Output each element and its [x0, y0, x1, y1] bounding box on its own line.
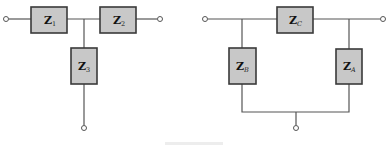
impedance-label: Z — [113, 14, 121, 27]
impedance-subscript: 3 — [86, 66, 90, 74]
impedance-subscript: A — [350, 66, 356, 74]
impedance-z3: Z3 — [71, 48, 97, 84]
pi-network: ZC ZB ZA — [203, 7, 386, 131]
terminal-t-right — [158, 17, 163, 22]
circuit-diagram: Z1 Z2 Z3 — [0, 0, 390, 149]
impedance-zb: ZB — [229, 48, 256, 84]
impedance-subscript: 1 — [52, 20, 56, 28]
impedance-zc: ZC — [277, 7, 313, 33]
terminal-pi-right — [381, 17, 386, 22]
impedance-label: Z — [44, 14, 52, 27]
impedance-subscript: B — [243, 66, 249, 74]
impedance-z2: Z2 — [100, 7, 136, 33]
terminal-pi-bottom — [294, 126, 299, 131]
t-network: Z1 Z2 Z3 — [4, 7, 163, 131]
impedance-label: Z — [236, 60, 244, 73]
terminal-pi-left — [203, 17, 208, 22]
impedance-za: ZA — [336, 49, 362, 84]
impedance-label: Z — [78, 60, 86, 73]
impedance-label: Z — [343, 60, 351, 73]
terminal-t-bottom — [82, 126, 87, 131]
impedance-z1: Z1 — [31, 7, 67, 33]
impedance-label: Z — [289, 14, 297, 27]
caption-remnant — [165, 142, 223, 145]
wire-pi-bottom-rail — [242, 84, 349, 112]
impedance-subscript: C — [297, 20, 302, 28]
impedance-subscript: 2 — [121, 20, 125, 28]
terminal-t-left — [4, 17, 9, 22]
